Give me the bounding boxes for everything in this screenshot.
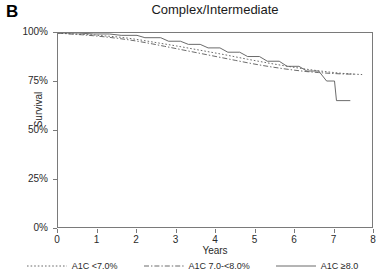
legend-line-swatch bbox=[276, 263, 316, 269]
legend-item-1: A1C <7.0% bbox=[27, 262, 118, 271]
x-tick-mark bbox=[373, 229, 374, 233]
legend-item-2: A1C 7.0-<8.0% bbox=[144, 262, 250, 271]
legend-label: A1C ≥8.0 bbox=[321, 262, 358, 271]
y-tick-label: 100% bbox=[12, 27, 48, 37]
x-tick-label: 1 bbox=[87, 235, 107, 245]
y-tick-label: 0% bbox=[12, 223, 48, 233]
survival-curve-2 bbox=[58, 33, 354, 74]
chart-title: Complex/Intermediate bbox=[57, 2, 373, 18]
chart-legend: A1C <7.0%A1C 7.0-<8.0%A1C ≥8.0 bbox=[0, 259, 385, 273]
x-tick-label: 7 bbox=[324, 235, 344, 245]
survival-curve-3 bbox=[58, 33, 350, 101]
legend-label: A1C 7.0-<8.0% bbox=[189, 262, 250, 271]
x-tick-label: 8 bbox=[363, 235, 383, 245]
x-tick-mark bbox=[334, 229, 335, 233]
x-tick-label: 6 bbox=[284, 235, 304, 245]
legend-line-swatch bbox=[144, 263, 184, 269]
x-tick-mark bbox=[57, 229, 58, 233]
x-tick-mark bbox=[176, 229, 177, 233]
y-tick-label: 75% bbox=[12, 76, 48, 86]
legend-item-3: A1C ≥8.0 bbox=[276, 262, 358, 271]
plot-area bbox=[57, 32, 373, 228]
x-axis-label: Years bbox=[57, 245, 373, 256]
x-tick-label: 2 bbox=[126, 235, 146, 245]
y-tick-label: 25% bbox=[12, 174, 48, 184]
survival-curves bbox=[58, 33, 374, 229]
x-tick-mark bbox=[97, 229, 98, 233]
x-tick-mark bbox=[255, 229, 256, 233]
y-tick-label: 50% bbox=[12, 125, 48, 135]
x-tick-mark bbox=[294, 229, 295, 233]
survival-curve-1 bbox=[58, 33, 362, 75]
x-tick-label: 3 bbox=[166, 235, 186, 245]
x-tick-label: 4 bbox=[205, 235, 225, 245]
x-tick-label: 0 bbox=[47, 235, 67, 245]
x-tick-mark bbox=[136, 229, 137, 233]
x-tick-mark bbox=[215, 229, 216, 233]
figure-panel: B Complex/Intermediate Survival 0%25%50%… bbox=[0, 0, 385, 277]
legend-line-swatch bbox=[27, 263, 67, 269]
legend-label: A1C <7.0% bbox=[72, 262, 118, 271]
panel-letter: B bbox=[6, 3, 18, 20]
x-tick-label: 5 bbox=[245, 235, 265, 245]
